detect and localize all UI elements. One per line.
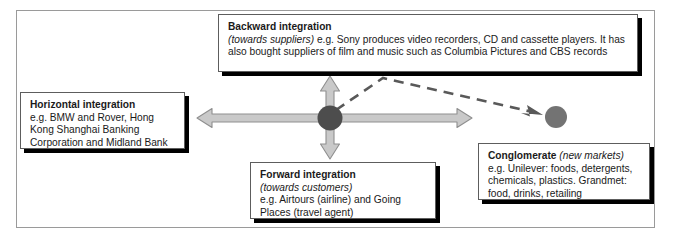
box-conglomerate: Conglomerate (new markets) e.g. Unilever… bbox=[478, 143, 650, 200]
conglomerate-line-2: chemicals, plastics. Grandmet: bbox=[488, 175, 641, 188]
horizontal-line-3: Corporation and Midland Bank bbox=[30, 137, 176, 150]
box-forward-integration: Forward integration (towards customers) … bbox=[250, 162, 436, 219]
forward-title: Forward integration bbox=[260, 169, 427, 182]
conglomerate-subtitle: (new markets) bbox=[557, 150, 624, 161]
backward-line-1: (towards suppliers) e.g. Sony produces v… bbox=[228, 34, 629, 47]
horizontal-title: Horizontal integration bbox=[30, 99, 176, 112]
conglomerate-line-3: food, drinks, retailing bbox=[488, 188, 641, 201]
conglomerate-title: Conglomerate bbox=[488, 150, 557, 161]
box-backward-integration: Backward integration (towards suppliers)… bbox=[218, 14, 638, 72]
forward-line-2: Places (travel agent) bbox=[260, 207, 427, 220]
forward-subtitle: (towards customers) bbox=[260, 182, 427, 195]
forward-line-1: e.g. Airtours (airline) and Going bbox=[260, 194, 427, 207]
horizontal-line-1: e.g. BMW and Rover, Hong bbox=[30, 112, 176, 125]
backward-line-1-rest: e.g. Sony produces video recorders, CD a… bbox=[314, 34, 625, 45]
conglomerate-title-line: Conglomerate (new markets) bbox=[488, 150, 641, 163]
backward-subtitle: (towards suppliers) bbox=[228, 34, 314, 45]
box-horizontal-integration: Horizontal integration e.g. BMW and Rove… bbox=[20, 92, 185, 149]
backward-line-2: also bought suppliers of film and music … bbox=[228, 46, 629, 59]
backward-title: Backward integration bbox=[228, 21, 629, 34]
horizontal-line-2: Kong Shanghai Banking bbox=[30, 124, 176, 137]
conglomerate-line-1: e.g. Unilever: foods, detergents, bbox=[488, 163, 641, 176]
